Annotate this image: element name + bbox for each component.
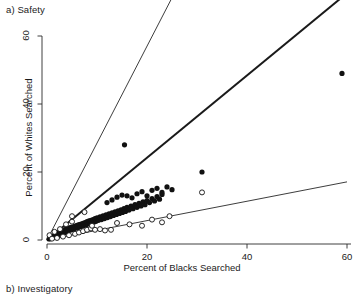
data-point-filled: [114, 195, 119, 200]
data-point-open: [90, 223, 95, 228]
data-point-filled: [154, 186, 159, 191]
x-tick-label: 60: [335, 251, 359, 262]
data-point-open: [127, 222, 132, 227]
data-point-filled: [149, 188, 154, 193]
data-point-open: [52, 229, 57, 234]
data-point-open: [82, 210, 87, 215]
data-point-open: [109, 227, 114, 232]
trend-line-fit-line: [47, 0, 347, 240]
data-point-open: [50, 236, 55, 241]
data-point-open: [115, 221, 120, 226]
data-point-open: [98, 227, 103, 232]
data-point-filled: [119, 193, 124, 198]
data-point-open: [64, 222, 69, 227]
data-point-filled: [339, 71, 344, 76]
data-point-open: [58, 227, 63, 232]
data-point-filled: [157, 197, 162, 202]
data-point-filled: [124, 193, 129, 198]
data-point-open: [200, 190, 205, 195]
data-point-filled: [109, 197, 114, 202]
data-point-open: [70, 219, 75, 224]
data-point-open: [55, 235, 60, 240]
trend-line-lower-reference-line: [47, 182, 347, 240]
data-point-open: [103, 228, 108, 233]
x-tick-label: 0: [35, 251, 59, 262]
data-point-filled: [152, 198, 157, 203]
y-tick-label: 20: [20, 160, 31, 184]
data-point-filled: [159, 190, 164, 195]
x-tick-label: 40: [235, 251, 259, 262]
y-axis-title: Percent of Whites Searched: [23, 48, 34, 228]
figure-panel-a: a) Safety b) Investigatory Percent of Bl…: [0, 0, 364, 299]
x-axis-title: Percent of Blacks Searched: [0, 262, 364, 273]
data-point-open: [160, 220, 165, 225]
data-point-open: [70, 214, 75, 219]
data-point-filled: [122, 142, 127, 147]
data-point-filled: [169, 187, 174, 192]
trend-line-upper-reference-line: [47, 0, 305, 240]
x-tick-label: 20: [135, 251, 159, 262]
data-point-filled: [104, 200, 109, 205]
data-point-open: [67, 233, 72, 238]
data-point-open: [61, 234, 66, 239]
data-point-filled: [139, 189, 144, 194]
data-point-filled: [199, 169, 204, 174]
y-tick-label: 60: [20, 24, 31, 48]
data-point-open: [150, 217, 155, 222]
data-point-filled: [144, 193, 149, 198]
y-tick-label: 40: [20, 92, 31, 116]
y-tick-label: 0: [20, 228, 31, 252]
data-point-filled: [164, 184, 169, 189]
data-point-open: [140, 223, 145, 228]
data-point-filled: [134, 191, 139, 196]
data-point-filled: [129, 195, 134, 200]
data-point-open: [167, 214, 172, 219]
